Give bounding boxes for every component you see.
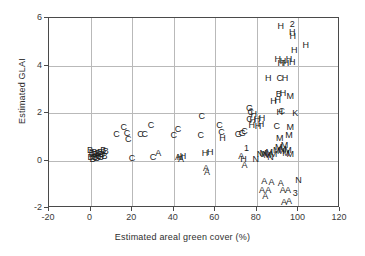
gridline-vertical	[91, 18, 92, 206]
y-tick-label: 6	[18, 12, 42, 22]
y-axis-tick	[44, 17, 48, 18]
y-axis-label: Estimated GLAI	[17, 21, 27, 161]
x-axis-label: Estimated areal green cover (%)	[0, 232, 365, 242]
gridline-horizontal	[49, 161, 338, 162]
x-axis-tick	[339, 207, 340, 211]
gridline-vertical	[132, 18, 133, 206]
y-axis-tick	[44, 65, 48, 66]
y-tick-label: -2	[18, 202, 42, 212]
x-tick-label: 0	[72, 212, 108, 222]
y-axis-tick	[44, 207, 48, 208]
x-axis-tick	[131, 207, 132, 211]
y-tick-label: 2	[18, 107, 42, 117]
y-tick-label: 4	[18, 60, 42, 70]
y-axis-tick	[44, 112, 48, 113]
x-axis-tick	[48, 207, 49, 211]
y-tick-label: 0	[18, 155, 42, 165]
x-axis-tick	[256, 207, 257, 211]
x-tick-label: -20	[30, 212, 66, 222]
x-axis-tick	[214, 207, 215, 211]
x-tick-label: 40	[155, 212, 191, 222]
gridline-vertical	[257, 18, 258, 206]
x-tick-label: 80	[238, 212, 274, 222]
gridline-vertical	[174, 18, 175, 206]
x-tick-label: 120	[321, 212, 357, 222]
y-axis-tick	[44, 160, 48, 161]
chart-page: Estimated areal green cover (%) Estimate…	[0, 0, 365, 256]
x-axis-tick	[90, 207, 91, 211]
gridline-horizontal	[49, 66, 338, 67]
x-axis-tick	[173, 207, 174, 211]
gridline-vertical	[298, 18, 299, 206]
x-tick-label: 20	[113, 212, 149, 222]
gridline-horizontal	[49, 113, 338, 114]
gridline-vertical	[215, 18, 216, 206]
plot-area	[48, 17, 339, 207]
x-tick-label: 60	[196, 212, 232, 222]
x-tick-label: 100	[279, 212, 315, 222]
x-axis-tick	[297, 207, 298, 211]
